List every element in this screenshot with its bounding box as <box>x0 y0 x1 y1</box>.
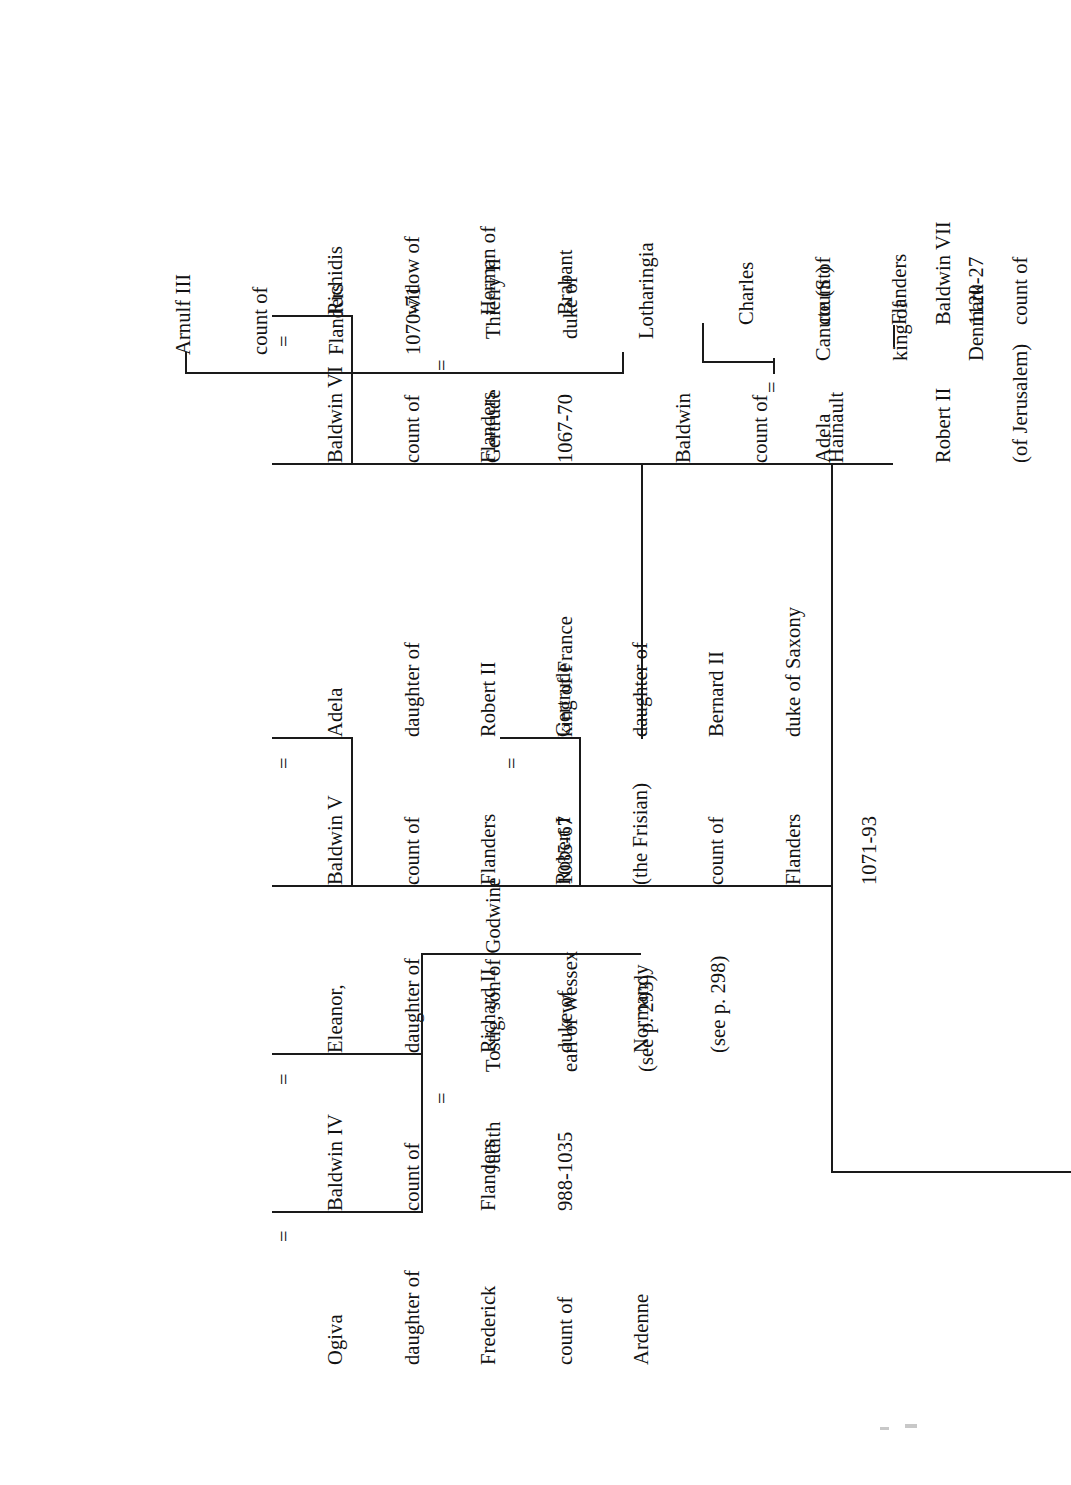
marriage-symbol-baldwiniv-eleanor: = <box>272 1073 298 1085</box>
connector-richidis-stem <box>272 315 352 317</box>
print-speck <box>880 1427 889 1430</box>
connector-roberti-stem <box>500 885 832 887</box>
connector-gen2-pairbar <box>351 737 353 887</box>
connector-gertrude-saxony-stem <box>500 737 580 739</box>
person-gertrude-child: Gertrude <box>430 389 558 463</box>
connector-baldwinvi-children-feed <box>351 373 353 465</box>
marriage-symbol-adela-canute: = <box>760 381 786 393</box>
print-speck <box>905 1424 917 1428</box>
person-thierry-ii: Thierry II duke of Lotharingia <box>430 242 711 339</box>
connector-adela-riser <box>641 463 773 465</box>
person-adela-denmark: Adela <box>760 414 888 463</box>
genealogy-chart: Descendants of Baldwin IV count of Fland… <box>0 0 1071 1485</box>
connector-roberti-pairbar <box>579 737 581 887</box>
connector-arnulf-arm <box>185 352 187 374</box>
connector-robertii-arm <box>641 465 643 739</box>
marriage-symbol-roberti-gertrude: = <box>500 757 526 769</box>
connector-gen1-stem-baldwiniv <box>272 1211 422 1213</box>
marriage-symbol-gertrude-thierry: = <box>430 359 456 371</box>
connector-baldwinvi-to-bus <box>831 463 833 887</box>
page-title: Descendants of Baldwin IV count of Fland… <box>1000 1108 1071 1423</box>
person-gertrude-saxony: Gertrude daughter of Bernard II duke of … <box>500 607 857 737</box>
connector-canute-drop <box>702 361 774 363</box>
marriage-symbol-baldwinv-adela: = <box>272 757 298 769</box>
person-robert-i: Robert I (the Frisian) count of Flanders… <box>500 783 934 885</box>
connector-matilda-arm <box>831 885 833 1173</box>
person-charles: Charles count of Flanders 1120-27 <box>683 254 1040 325</box>
connector-gertrude-riser <box>443 463 643 465</box>
marriage-symbol-ogiva-baldwiniv: = <box>272 1230 298 1242</box>
person-judith: Judith <box>430 1121 558 1172</box>
connector-gen1-stem-eleanor <box>272 1053 422 1055</box>
connector-gen2-stem-adela <box>272 737 352 739</box>
connector-hainault-arm <box>622 352 624 374</box>
person-ogiva: Ogiva daughter of Frederick count of Ard… <box>272 1270 706 1365</box>
marriage-symbol-judith-tostig: = <box>430 1092 456 1104</box>
person-tostig: Tostig, son of Godwine earl of Wessex (s… <box>430 878 711 1072</box>
connector-baldwinvi-stem <box>272 463 352 465</box>
connector-judith-arm <box>421 1161 423 1213</box>
person-robert-ii: Robert II (of Jerusalem) count of Flande… <box>880 344 1071 463</box>
connector-matilda-riser <box>831 1171 1071 1173</box>
rotated-plate: Descendants of Baldwin IV count of Fland… <box>0 0 1071 1485</box>
connector-baldwinvi-children-riser <box>185 372 623 374</box>
